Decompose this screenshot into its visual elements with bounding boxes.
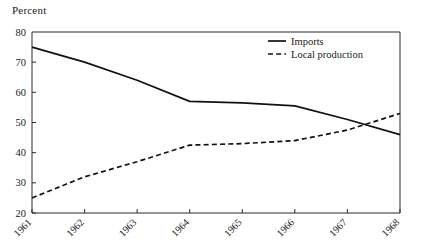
x-tick-label: 1968 <box>379 217 401 239</box>
x-tick-label: 1966 <box>274 217 296 239</box>
series-line-local-production <box>32 113 400 197</box>
x-tick-label: 1961 <box>11 217 33 239</box>
y-axis-ticks: 20304050607080 <box>16 27 37 219</box>
y-tick-label: 40 <box>16 147 27 158</box>
y-tick-label: 70 <box>16 57 27 68</box>
x-tick-label: 1963 <box>117 217 139 239</box>
legend-label-imports: Imports <box>291 36 324 47</box>
y-tick-label: 60 <box>16 87 27 98</box>
y-tick-label: 50 <box>16 117 27 128</box>
legend-label-local-production: Local production <box>291 49 364 60</box>
chart-legend: ImportsLocal production <box>268 36 364 60</box>
series-line-imports <box>32 47 400 134</box>
line-chart-svg: 20304050607080 1961196219631964196519661… <box>0 0 424 252</box>
data-series-layer <box>32 47 400 198</box>
y-tick-label: 30 <box>16 177 27 188</box>
y-tick-label: 80 <box>16 27 27 38</box>
x-tick-label: 1965 <box>222 217 244 239</box>
x-tick-label: 1964 <box>169 217 191 239</box>
x-tick-label: 1967 <box>327 217 349 239</box>
x-tick-label: 1962 <box>64 217 86 239</box>
chart-container: Percent 20304050607080 19611962196319641… <box>0 0 424 252</box>
